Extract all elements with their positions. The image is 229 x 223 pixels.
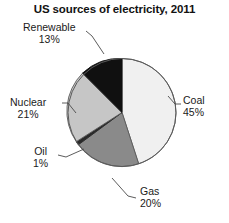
slice-label-gas-name: Gas <box>140 185 159 197</box>
slice-label-nuclear: Nuclear 21% <box>10 97 46 120</box>
slice-label-renewable-name: Renewable <box>23 21 76 33</box>
slice-label-renewable: Renewable 13% <box>23 22 76 45</box>
slice-label-gas: Gas 20% <box>140 186 161 209</box>
slice-label-gas-percent: 20% <box>140 198 161 210</box>
slice-label-oil-percent: 1% <box>33 158 48 170</box>
leader-line-gas <box>112 178 136 198</box>
leader-line-renewable <box>86 31 104 54</box>
slice-label-coal-percent: 45% <box>183 107 205 119</box>
slice-label-renewable-percent: 13% <box>23 34 76 46</box>
pie-chart-figure: US sources of electricity, 2011 Renewabl… <box>0 0 229 223</box>
slice-label-coal: Coal 45% <box>183 95 205 118</box>
slice-label-oil: Oil 1% <box>33 146 48 169</box>
slice-label-oil-name: Oil <box>34 145 47 157</box>
slice-label-coal-name: Coal <box>183 94 205 106</box>
slice-label-nuclear-name: Nuclear <box>10 96 46 108</box>
leader-line-oil <box>58 149 84 157</box>
slice-label-nuclear-percent: 21% <box>10 109 46 121</box>
